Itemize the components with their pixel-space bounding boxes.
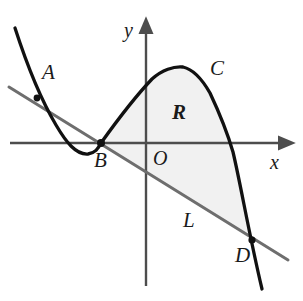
label-origin: O [153,148,167,168]
label-point-c: C [210,58,224,79]
label-y-axis: y [124,20,133,40]
shaded-region-r [101,67,252,240]
label-region-r: R [172,102,186,123]
label-point-b: B [94,150,107,171]
math-figure: A B C D R L O x y [0,0,303,301]
label-point-a: A [42,62,55,83]
label-point-d: D [235,245,250,266]
graph-canvas [0,0,303,301]
label-line-l: L [183,210,195,231]
point-marker-a [34,95,41,102]
point-marker-b [97,139,105,147]
label-x-axis: x [270,152,279,172]
